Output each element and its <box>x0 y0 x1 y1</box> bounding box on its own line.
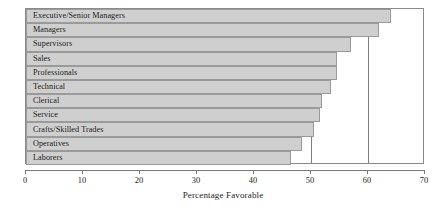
tick-mark-10 <box>82 170 83 174</box>
bar-3: Supervisors <box>26 37 351 51</box>
bar-row: Clerical <box>26 94 425 108</box>
tick-label-70: 70 <box>420 176 428 185</box>
tick-label-30: 30 <box>192 176 200 185</box>
bar-row: Laborers <box>26 151 425 165</box>
tick-mark-0 <box>25 170 26 174</box>
bar-row: Service <box>26 108 425 122</box>
tick-mark-60 <box>367 170 368 174</box>
bar-category-label: Managers <box>33 26 66 34</box>
bar-category-label: Supervisors <box>33 40 72 48</box>
bar-11: Laborers <box>26 151 291 165</box>
tick-mark-70 <box>424 170 425 174</box>
bar-1: Executive/Senior Managers <box>26 9 391 23</box>
bar-6: Technical <box>26 80 331 94</box>
bar-category-label: Clerical <box>33 97 59 105</box>
bar-row: Crafts/Skilled Trades <box>26 122 425 136</box>
bar-row: Professionals <box>26 66 425 80</box>
bar-category-label: Technical <box>33 83 65 91</box>
tick-label-50: 50 <box>306 176 314 185</box>
bar-row: Managers <box>26 23 425 37</box>
bar-4: Sales <box>26 52 337 66</box>
bar-row: Technical <box>26 80 425 94</box>
x-axis-line <box>25 170 424 171</box>
bar-7: Clerical <box>26 94 322 108</box>
bar-category-label: Executive/Senior Managers <box>33 12 125 20</box>
tick-mark-40 <box>253 170 254 174</box>
bar-row: Operatives <box>26 137 425 151</box>
bar-5: Professionals <box>26 66 337 80</box>
x-axis-title: Percentage Favorable <box>0 190 446 200</box>
bar-chart: Executive/Senior ManagersManagersSupervi… <box>0 0 446 216</box>
bar-category-label: Operatives <box>33 140 69 148</box>
tick-label-10: 10 <box>78 176 86 185</box>
plot-area: Executive/Senior ManagersManagersSupervi… <box>25 8 424 164</box>
bar-category-label: Laborers <box>33 154 63 162</box>
bar-10: Operatives <box>26 137 302 151</box>
tick-label-0: 0 <box>23 176 27 185</box>
bar-category-label: Sales <box>33 55 51 63</box>
bar-category-label: Professionals <box>33 69 77 77</box>
bar-category-label: Service <box>33 111 58 119</box>
tick-mark-20 <box>139 170 140 174</box>
bars-layer: Executive/Senior ManagersManagersSupervi… <box>26 9 423 163</box>
bar-9: Crafts/Skilled Trades <box>26 122 314 136</box>
bar-row: Sales <box>26 52 425 66</box>
tick-label-40: 40 <box>249 176 257 185</box>
tick-mark-50 <box>310 170 311 174</box>
tick-label-60: 60 <box>363 176 371 185</box>
bar-row: Executive/Senior Managers <box>26 9 425 23</box>
bar-category-label: Crafts/Skilled Trades <box>33 125 103 133</box>
bar-row: Supervisors <box>26 37 425 51</box>
bar-2: Managers <box>26 23 379 37</box>
tick-mark-30 <box>196 170 197 174</box>
tick-label-20: 20 <box>135 176 143 185</box>
bar-8: Service <box>26 108 320 122</box>
